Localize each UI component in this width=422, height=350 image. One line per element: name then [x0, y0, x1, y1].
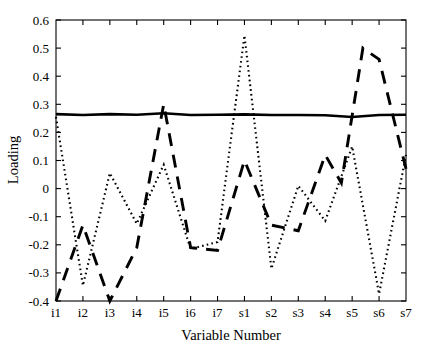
- plot-frame: [56, 20, 406, 301]
- x-tick-label: i7: [212, 305, 223, 320]
- y-tick-label: 0.5: [33, 41, 49, 56]
- y-tick-label: 0.2: [33, 125, 49, 140]
- y-axis-tick-labels: -0.4-0.3-0.2-0.100.10.20.30.40.50.6: [28, 13, 49, 309]
- x-tick-label: s1: [239, 305, 251, 320]
- x-tick-label: s6: [373, 305, 385, 320]
- axes-box: [56, 20, 406, 301]
- x-tick-label: i4: [132, 305, 143, 320]
- x-tick-label: i5: [159, 305, 169, 320]
- y-tick-label: 0: [43, 181, 50, 196]
- y-axis-ticks: [56, 20, 406, 301]
- x-axis-tick-labels: i1i2i3i4i5i6i7s1s2s3s4s5s6s7: [51, 305, 412, 320]
- x-tick-label: s3: [293, 305, 305, 320]
- x-tick-label: s5: [346, 305, 358, 320]
- x-tick-label: i3: [105, 305, 115, 320]
- x-axis-title: Variable Number: [181, 327, 281, 343]
- chart-container: -0.4-0.3-0.2-0.100.10.20.30.40.50.6 i1i2…: [0, 0, 422, 350]
- data-series-group: [56, 35, 406, 301]
- loading-plot: -0.4-0.3-0.2-0.100.10.20.30.40.50.6 i1i2…: [0, 0, 422, 350]
- series-dotted: [56, 35, 406, 294]
- y-axis-title: Loading: [5, 136, 21, 184]
- y-tick-label: -0.2: [28, 237, 49, 252]
- x-tick-label: s4: [319, 305, 331, 320]
- x-tick-label: s7: [400, 305, 412, 320]
- y-tick-label: 0.4: [33, 69, 50, 84]
- y-tick-label: 0.3: [33, 97, 49, 112]
- y-tick-label: 0.6: [33, 13, 50, 28]
- y-tick-label: -0.4: [28, 294, 49, 309]
- x-tick-label: s2: [266, 305, 278, 320]
- y-tick-label: -0.1: [28, 209, 49, 224]
- x-tick-label: i1: [51, 305, 61, 320]
- x-tick-label: i2: [78, 305, 88, 320]
- x-axis-ticks: [83, 20, 379, 301]
- y-tick-label: -0.3: [28, 265, 49, 280]
- y-tick-label: 0.1: [33, 153, 49, 168]
- x-tick-label: i6: [186, 305, 197, 320]
